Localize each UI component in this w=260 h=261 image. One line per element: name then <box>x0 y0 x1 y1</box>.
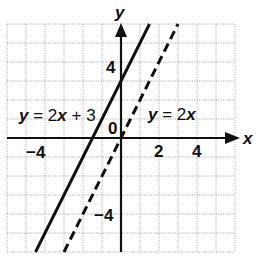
equation-label-solid: y = 2x + 3 <box>18 106 96 125</box>
eq-text: = 2 <box>157 105 186 124</box>
eq-text: + 3 <box>67 106 96 125</box>
x-tick-label: 4 <box>192 142 202 161</box>
y-tick-label: −4 <box>94 206 114 225</box>
x-axis-label: x <box>242 129 254 148</box>
y-tick-label: 4 <box>106 58 116 77</box>
x-tick-label: −4 <box>26 143 46 162</box>
origin-label: 0 <box>108 119 117 138</box>
y-axis-arrow-icon <box>115 23 127 37</box>
x-axis-arrow-icon <box>225 132 240 144</box>
x-tick-label: 2 <box>154 142 163 161</box>
eq-var-x: x <box>185 105 197 124</box>
y-axis-label: y <box>114 3 126 22</box>
coordinate-plane: x y −4 2 4 4 −4 0 y = 2x + 3 y = 2x <box>0 0 260 261</box>
eq-text: = 2 <box>28 106 57 125</box>
equation-label-dashed: y = 2x <box>147 105 197 124</box>
axes <box>7 23 240 252</box>
